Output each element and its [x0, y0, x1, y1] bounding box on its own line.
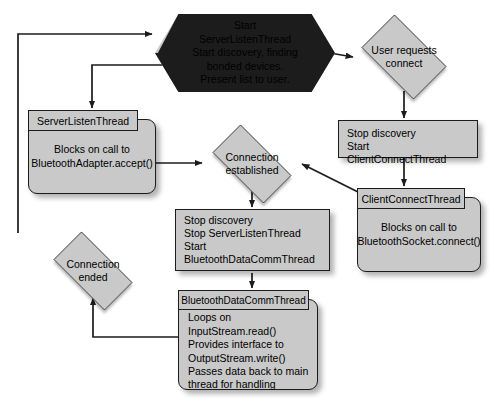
data-comm-line-1: Loops on InputStream.read() [188, 311, 311, 338]
bluetooth-data-comm-thread-tab: BluetoothDataCommThread [178, 290, 309, 310]
flowchart-canvas: Start ServerListenThread Start discovery… [0, 0, 494, 404]
edge-start-to-server-listen-thread [92, 65, 164, 108]
server-listen-line-2: BluetoothAdapter.accept() [31, 157, 152, 170]
data-comm-line-3: OutputStream.write() [188, 352, 311, 365]
server-listen-line-1: Blocks on call to [31, 143, 152, 156]
node-user-requests-connect-label: User requests connect [352, 24, 456, 90]
connection-ended-line-1: Connection [66, 258, 119, 271]
start-line-5: Present list to user. [192, 73, 297, 86]
edge-client-connect-to-connection-established [302, 164, 358, 192]
data-comm-line-4: Passes data back to main [188, 365, 311, 378]
stop-discovery-datacomm-line-3: Start BluetoothDataCommThread [184, 240, 321, 266]
stop-discovery-datacomm-line-2: Stop ServerListenThread [184, 227, 321, 240]
node-connection-ended-label: Connection ended [42, 243, 144, 299]
start-line-1: Start [192, 19, 297, 32]
node-user-requests-connect[interactable]: User requests connect [352, 24, 456, 90]
node-server-listen-thread[interactable]: Blocks on call to BluetoothAdapter.accep… [28, 110, 156, 194]
bluetooth-data-comm-thread-body: Loops on InputStream.read() Provides int… [178, 299, 318, 390]
node-client-connect-thread[interactable]: Blocks on call to BluetoothSocket.connec… [357, 188, 481, 272]
node-connection-established-label: Connection established [201, 136, 303, 192]
server-listen-thread-tab: ServerListenThread [28, 110, 138, 131]
stop-discovery-client-line-2: Start ClientConnectThread [347, 140, 469, 166]
node-bluetooth-data-comm-thread[interactable]: Loops on InputStream.read() Provides int… [178, 290, 318, 390]
connection-ended-line-2: ended [66, 271, 119, 284]
client-connect-thread-tab: ClientConnectThread [357, 188, 465, 209]
client-connect-line-1: Blocks on call to [357, 221, 480, 234]
connection-established-line-1: Connection [225, 151, 278, 164]
node-stop-discovery-start-data-comm[interactable]: Stop discovery Stop ServerListenThread S… [175, 209, 330, 271]
node-start-label: Start ServerListenThread Start discovery… [155, 14, 335, 92]
data-comm-line-2: Provides interface to [188, 338, 311, 351]
start-line-2: ServerListenThread [192, 33, 297, 46]
connection-established-line-2: established [225, 164, 278, 177]
client-connect-line-2: BluetoothSocket.connect() [357, 235, 480, 248]
data-comm-line-5: thread for handling [188, 378, 311, 391]
user-requests-line-1: User requests [371, 44, 436, 57]
node-connection-established[interactable]: Connection established [201, 136, 303, 192]
node-stop-discovery-start-client-connect[interactable]: Stop discovery Start ClientConnectThread [338, 120, 478, 158]
node-start[interactable]: Start ServerListenThread Start discovery… [155, 14, 335, 92]
start-line-4: bonded devices. [192, 60, 297, 73]
stop-discovery-datacomm-line-1: Stop discovery [184, 214, 321, 227]
start-line-3: Start discovery, finding [192, 46, 297, 59]
node-connection-ended[interactable]: Connection ended [42, 243, 144, 299]
user-requests-line-2: connect [371, 57, 436, 70]
stop-discovery-client-line-1: Stop discovery [347, 127, 469, 140]
